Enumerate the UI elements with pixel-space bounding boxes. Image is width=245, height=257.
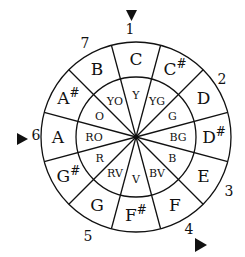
color-label: BG (169, 131, 186, 144)
color-label: RO (85, 131, 102, 144)
color-label: BV (149, 167, 166, 180)
color-wheel-diagram: CYC#YGDGD#BGEBFBVF#VGRVG#RAROA#OBYO 1234… (0, 0, 245, 257)
spoke (136, 70, 203, 137)
note-label: D# (202, 125, 226, 147)
color-label: Y (131, 89, 140, 102)
note-label: F# (125, 203, 147, 225)
note-label: A# (56, 86, 79, 108)
note-label: E (197, 166, 209, 186)
triangle-down-icon (126, 10, 137, 21)
position-number: 4 (185, 221, 194, 237)
note-label: B (91, 59, 104, 79)
position-number: 6 (32, 127, 41, 143)
note-label: A (51, 127, 65, 147)
triangle-right-icon (195, 238, 207, 252)
note-label: D (197, 88, 211, 108)
color-label: YO (106, 95, 123, 108)
color-label: RV (107, 167, 124, 180)
note-label: G# (57, 164, 81, 186)
note-label: G (90, 195, 104, 215)
color-label: G (168, 110, 177, 123)
spoke (69, 70, 136, 137)
triangle-right-icon (17, 133, 28, 145)
note-label: C# (163, 57, 186, 79)
color-label: O (95, 110, 104, 123)
position-number: 5 (84, 228, 93, 244)
note-label: C (129, 49, 142, 69)
position-number: 1 (126, 21, 135, 37)
note-label: F (169, 195, 181, 215)
wheel-svg: CYC#YGDGD#BGEBFBVF#VGRVG#RAROA#OBYO 1234… (0, 0, 245, 257)
color-label: R (95, 152, 104, 165)
color-label: YG (148, 95, 165, 108)
position-number: 2 (218, 71, 227, 87)
color-label: B (168, 152, 176, 165)
position-number: 7 (81, 35, 90, 51)
color-label: V (131, 173, 141, 186)
position-number: 3 (225, 183, 234, 199)
